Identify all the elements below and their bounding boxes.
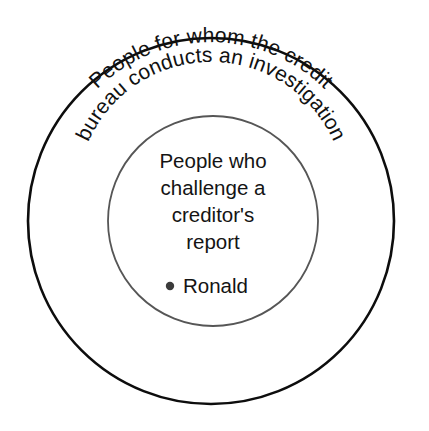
bullet-point-icon xyxy=(166,282,174,290)
inner-set-member-label: Ronald xyxy=(183,274,248,297)
inner-set-label-line-3: creditor's xyxy=(172,203,255,226)
inner-set-label-line-1: People who xyxy=(159,149,266,172)
euler-diagram: People for whom the credit bureau conduc… xyxy=(0,0,429,431)
inner-set-label-line-4: report xyxy=(186,230,240,253)
inner-set-member-ronald: Ronald xyxy=(166,274,248,297)
inner-set-label-line-2: challenge a xyxy=(161,176,266,199)
inner-set-label: People who challenge a creditor's report xyxy=(159,149,266,253)
venn-diagram-canvas: People for whom the credit bureau conduc… xyxy=(0,0,429,431)
